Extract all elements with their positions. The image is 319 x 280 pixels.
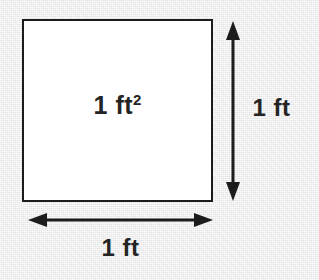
height-dimension-label: 1 ft [224,96,319,120]
square-area-unit: ft [108,91,133,119]
width-dimension-label: 1 ft [28,236,213,260]
square-area-value: 1 [94,91,108,119]
width-dimension-arrow [28,213,213,227]
square-area-label: 1 ft2 [22,92,213,118]
square-area-exponent: 2 [133,91,141,108]
diagram-canvas: 1 ft2 1 ft 1 ft [0,0,319,280]
